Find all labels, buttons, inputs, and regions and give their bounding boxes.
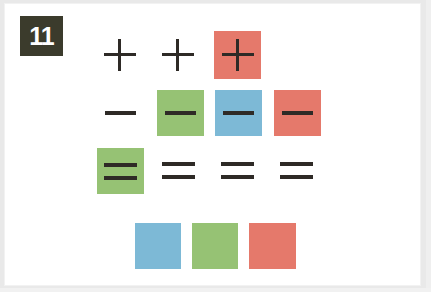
plus-glyph xyxy=(162,39,194,71)
green-tile-equals-2-0[interactable] xyxy=(97,148,144,194)
blue-tile-3-0[interactable] xyxy=(135,223,181,269)
plain-plus-0-1[interactable] xyxy=(162,39,194,71)
minus-glyph xyxy=(165,111,196,115)
page-frame: 11 xyxy=(0,0,431,292)
green-tile-3-1[interactable] xyxy=(192,223,238,269)
minus-glyph xyxy=(223,111,254,115)
plain-minus-1-0[interactable] xyxy=(105,111,136,115)
bottom-gutter xyxy=(0,288,431,292)
plain-plus-0-0[interactable] xyxy=(104,39,136,71)
plus-glyph xyxy=(222,39,254,71)
plus-glyph xyxy=(104,39,136,71)
minus-glyph xyxy=(282,111,313,115)
plain-equals-2-2[interactable] xyxy=(221,162,254,179)
page-number-badge: 11 xyxy=(20,16,63,56)
red-tile-3-2[interactable] xyxy=(249,223,296,269)
equals-glyph xyxy=(221,162,254,179)
equals-glyph xyxy=(104,163,137,180)
equals-glyph xyxy=(162,162,195,179)
plain-equals-2-1[interactable] xyxy=(162,162,195,179)
minus-glyph xyxy=(105,111,136,115)
right-gutter xyxy=(426,0,431,292)
worksheet-card: 11 xyxy=(5,4,420,285)
plain-equals-2-3[interactable] xyxy=(280,162,313,179)
green-tile-minus-1-1[interactable] xyxy=(157,90,204,136)
red-tile-plus-0-2[interactable] xyxy=(214,31,261,79)
blue-tile-minus-1-2[interactable] xyxy=(215,90,262,136)
equals-glyph xyxy=(280,162,313,179)
red-tile-minus-1-3[interactable] xyxy=(274,90,321,136)
